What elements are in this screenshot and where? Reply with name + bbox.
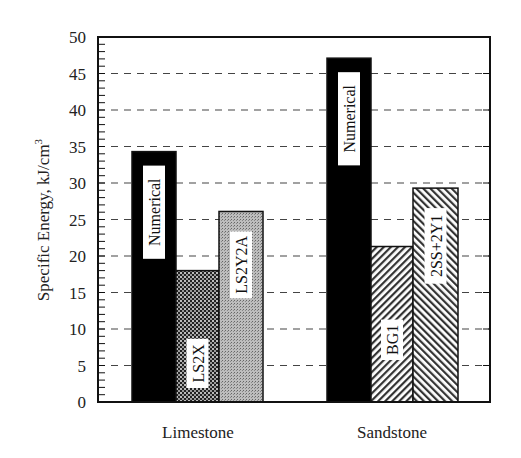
bar-label: LS2Y2A [233,236,250,294]
y-tick-label: 5 [78,357,87,376]
bar-label: LS2X [190,344,207,383]
x-category-labels: LimestoneSandstone [162,423,427,442]
y-axis-title-main: Specific Energy, kJ/cm [34,144,53,301]
bar-limestone-ls2y2a: LS2Y2A [219,211,263,402]
y-tick-label: 35 [69,138,86,157]
y-tick-label: 20 [69,247,86,266]
bar-chart: NumericalLS2XLS2Y2ANumericalBG12SS+2Y1 0… [0,0,521,458]
y-tick-label: 50 [69,28,86,47]
y-tick-labels: 05101520253035404550 [69,28,86,412]
bar-sandstone-2ss-2y1: 2SS+2Y1 [413,188,458,402]
y-axis-title: Specific Energy, kJ/cm3 [32,138,53,301]
y-tick-label: 0 [78,393,87,412]
y-tick-label: 30 [69,174,86,193]
y-tick-label: 10 [69,320,86,339]
bar-label: Numerical [341,84,358,152]
y-tick-label: 25 [69,211,86,230]
bar-sandstone-bg1: BG1 [371,247,413,402]
x-category-label: Limestone [162,423,234,442]
bar-label: BG1 [384,325,401,355]
x-category-label: Sandstone [357,423,427,442]
y-tick-label: 15 [69,284,86,303]
bar-sandstone-numerical: Numerical [327,58,371,402]
y-tick-label: 40 [69,101,86,120]
y-tick-label: 45 [69,65,86,84]
bar-label: Numerical [146,178,163,246]
bar-limestone-ls2x: LS2X [176,271,219,402]
bar-limestone-numerical: Numerical [132,152,176,402]
y-axis-title-sup: 3 [32,138,44,144]
bar-label: 2SS+2Y1 [428,215,445,277]
